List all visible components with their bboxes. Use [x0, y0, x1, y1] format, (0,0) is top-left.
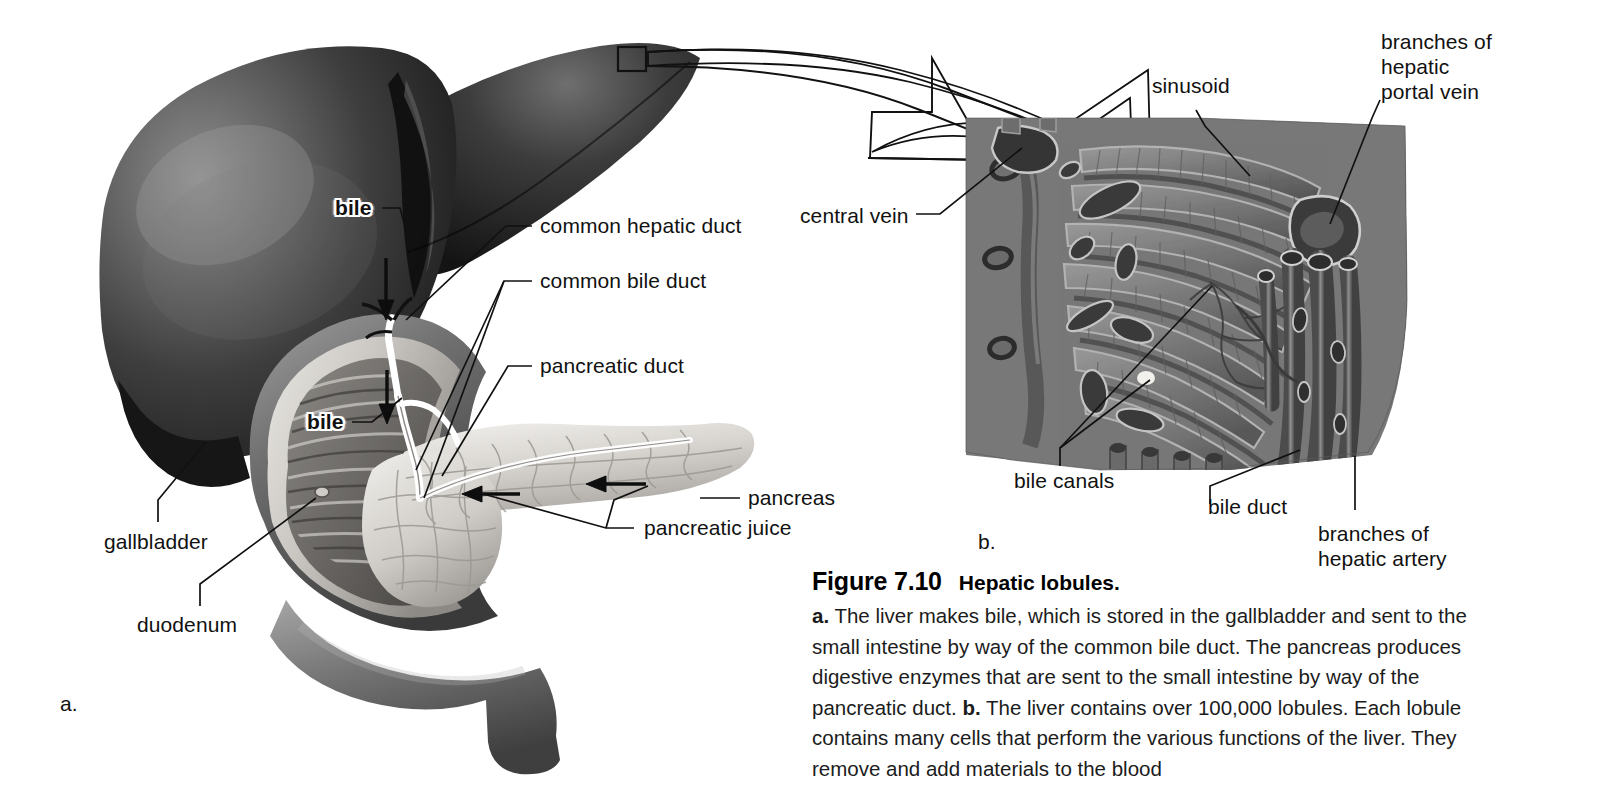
- label-pancreatic-juice: pancreatic juice: [644, 515, 792, 540]
- label-gallbladder: gallbladder: [104, 529, 208, 554]
- caption-figure-number: Figure 7.10: [812, 567, 942, 595]
- label-branches-hepatic-portal-vein-line1: branches of: [1381, 29, 1492, 54]
- caption-body: a. The liver makes bile, which is stored…: [812, 601, 1512, 784]
- label-bile-duct: bile duct: [1208, 494, 1287, 519]
- label-sinusoid: sinusoid: [1152, 73, 1230, 98]
- label-bile-lower: bile: [307, 409, 344, 434]
- label-bile-canals: bile canals: [1014, 468, 1114, 493]
- label-central-vein: central vein: [800, 203, 909, 228]
- label-common-hepatic-duct: common hepatic duct: [540, 213, 742, 238]
- duodenal-papilla: [315, 487, 329, 497]
- caption-a-marker: a.: [812, 604, 829, 627]
- panel-b-marker: b.: [978, 530, 996, 554]
- hepatic-lobules-figure: bile bile common hepatic duct common bil…: [0, 0, 1603, 799]
- label-branches-hepatic-portal-vein-line3: portal vein: [1381, 79, 1479, 104]
- label-branches-hepatic-artery-line1: branches of: [1318, 521, 1429, 546]
- label-bile-upper: bile: [335, 195, 372, 220]
- label-pancreas: pancreas: [748, 485, 835, 510]
- caption-b-marker: b.: [962, 696, 980, 719]
- label-duodenum: duodenum: [137, 612, 237, 637]
- label-pancreatic-duct: pancreatic duct: [540, 353, 684, 378]
- figure-caption: Figure 7.10Hepatic lobules. a. The liver…: [812, 566, 1512, 784]
- panel-a-marker: a.: [60, 692, 78, 716]
- panel-b-artwork: [916, 100, 1420, 510]
- label-branches-hepatic-portal-vein-line2: hepatic: [1381, 54, 1449, 79]
- panel-a-artwork: [99, 43, 754, 774]
- label-common-bile-duct: common bile duct: [540, 268, 706, 293]
- caption-heading: Figure 7.10Hepatic lobules.: [812, 566, 1512, 598]
- caption-figure-title: Hepatic lobules.: [942, 571, 1120, 594]
